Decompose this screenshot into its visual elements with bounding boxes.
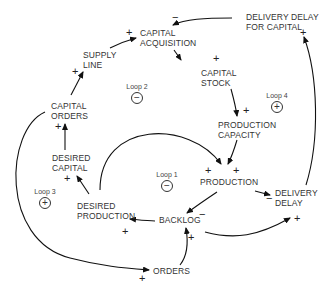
link-stock-to-capacity [231, 89, 237, 116]
node-production: PRODUCTION [200, 177, 258, 187]
node-capital-acquisition: CAPITAL ACQUISITION [140, 28, 196, 48]
link-desiredprod-to-desiredcapital [77, 176, 89, 194]
link-deliverydelay-to-ddcap [304, 37, 316, 185]
node-desired-production: DESIRED PRODUCTION [77, 201, 135, 221]
sign-capacity-production: + [233, 165, 239, 176]
node-delivery-delay-for-capital: DELIVERY DELAY FOR CAPITAL [246, 12, 319, 32]
sign-stock-capacity: + [243, 105, 249, 116]
sign-desiredprod-desiredcapital: + [64, 173, 70, 184]
link-acquisition-to-stock [174, 50, 181, 60]
sign-ddcap-acquisition: − [172, 12, 178, 23]
node-line: PRODUCTION [200, 177, 258, 187]
node-line: DELIVERY DELAY [246, 12, 319, 22]
loop-3-marker: Loop 3 + [30, 187, 60, 209]
sign-orders-backlog: + [188, 232, 194, 243]
loop-label: Loop 3 [34, 188, 55, 195]
node-backlog: BACKLOG [159, 215, 201, 225]
reinforcing-loop-icon: + [271, 101, 283, 113]
link-backlog-to-deliverydelay [205, 218, 290, 236]
node-line: PRODUCTION [218, 120, 276, 130]
node-line: LINE [83, 60, 117, 70]
node-delivery-delay: DELIVERY DELAY [275, 188, 318, 208]
node-line: CAPITAL [51, 101, 88, 111]
sign-deliverydelay-ddcap: + [300, 27, 306, 38]
node-line: DELIVERY [275, 188, 318, 198]
node-line: FOR CAPITAL [246, 22, 319, 32]
node-line: CAPITAL [52, 163, 91, 173]
node-capital-orders: CAPITAL ORDERS [51, 101, 88, 121]
link-supply-to-acquisition [110, 38, 136, 48]
sign-production-backlog: − [199, 209, 205, 220]
sign-desiredprod-production: + [205, 165, 211, 176]
node-line: BACKLOG [159, 215, 201, 225]
sign-backlog-deliverydelay: + [294, 213, 300, 224]
sign-acquisition-stock: + [213, 53, 219, 64]
node-line: CAPITAL [201, 68, 237, 78]
node-desired-capital: DESIRED CAPITAL [52, 153, 91, 173]
node-capital-stock: CAPITAL STOCK [201, 68, 237, 88]
node-production-capacity: PRODUCTION CAPACITY [218, 120, 276, 140]
sign-orders-supply: + [72, 66, 78, 77]
node-line: PRODUCTION [77, 211, 135, 221]
node-line: SUPPLY [83, 50, 117, 60]
link-orders-to-backlog [180, 228, 187, 265]
node-line: STOCK [201, 78, 237, 88]
node-line: DESIRED [52, 153, 91, 163]
loop-label: Loop 4 [266, 92, 287, 99]
node-line: CAPITAL [140, 28, 196, 38]
node-line: CAPACITY [218, 130, 276, 140]
node-orders: ORDERS [153, 266, 190, 276]
sign-production-deliverydelay: − [266, 193, 272, 204]
link-capacity-to-production [228, 140, 237, 164]
link-ddcap-to-acquisition [173, 18, 232, 25]
loop-label: Loop 1 [156, 171, 177, 178]
sign-desiredcapital-orders: + [55, 121, 61, 132]
node-line: ORDERS [153, 266, 190, 276]
sign-supply-acquisition: + [126, 27, 132, 38]
loop-1-marker: Loop 1 − [152, 170, 182, 192]
sign-backlog-desiredprod: + [122, 226, 128, 237]
node-line: DELAY [275, 198, 318, 208]
node-line: DESIRED [77, 201, 135, 211]
loop-4-marker: Loop 4 + [262, 91, 292, 113]
node-line: ACQUISITION [140, 38, 196, 48]
sign-capitalorders-orders: + [139, 273, 145, 284]
reinforcing-loop-icon: + [39, 197, 51, 209]
balancing-loop-icon: − [131, 92, 143, 104]
loop-label: Loop 2 [126, 83, 147, 90]
loop-2-marker: Loop 2 − [122, 82, 152, 104]
balancing-loop-icon: − [161, 180, 173, 192]
node-supply-line: SUPPLY LINE [83, 50, 117, 70]
